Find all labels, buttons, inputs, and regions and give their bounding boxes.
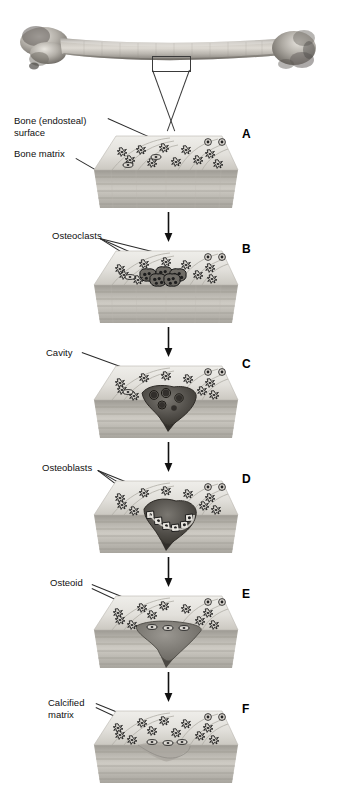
bone-remodeling-figure: Bone (endosteal) surface Bone matrix Ost… — [0, 0, 337, 802]
arrow-c-to-d — [163, 442, 174, 472]
label-calcified-matrix: Calcified matrix — [48, 697, 84, 720]
arrow-d-to-e — [163, 557, 174, 587]
label-osteoid: Osteoid — [50, 577, 83, 589]
label-osteoblasts: Osteoblasts — [42, 462, 92, 474]
arrow-e-to-f — [163, 672, 174, 702]
panel-c-bone-block — [86, 360, 246, 444]
label-cavity: Cavity — [46, 347, 72, 359]
label-osteoclasts: Osteoclasts — [52, 230, 102, 242]
panel-b-bone-block — [86, 245, 246, 329]
panel-d-bone-block — [86, 475, 246, 559]
panel-e-bone-block — [86, 590, 246, 674]
arrow-b-to-c — [163, 327, 174, 357]
label-bone-endosteal-surface: Bone (endosteal) surface — [14, 115, 86, 138]
panel-f-bone-block — [86, 705, 246, 789]
label-bone-matrix: Bone matrix — [14, 148, 65, 160]
callout-line-left — [152, 70, 175, 131]
panel-a-bone-block — [86, 130, 246, 214]
callout-line-right — [167, 70, 190, 131]
callout-rectangle — [152, 56, 191, 72]
arrow-a-to-b — [163, 212, 174, 242]
